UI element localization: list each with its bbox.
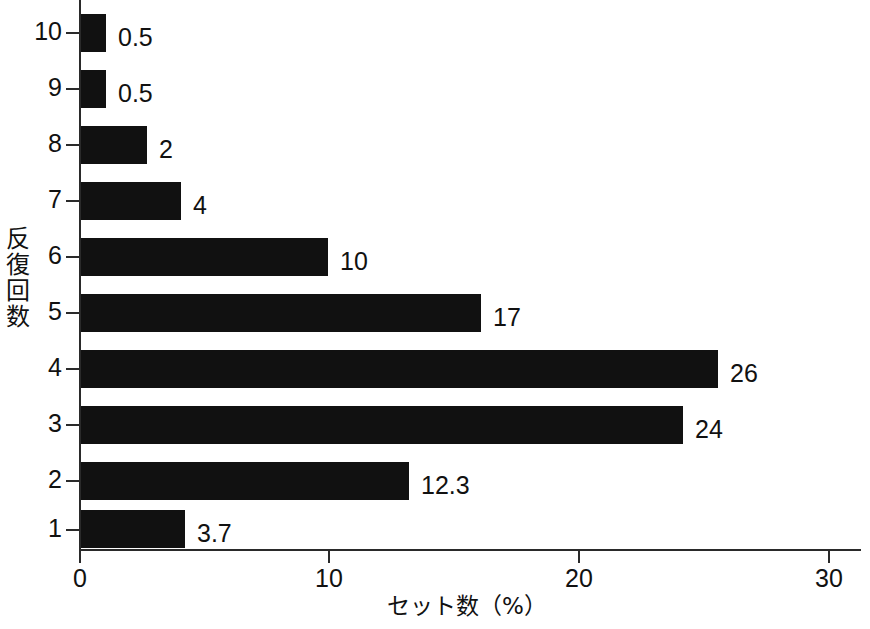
x-axis-tick — [79, 550, 81, 563]
bar — [81, 14, 106, 52]
bar — [81, 126, 147, 164]
x-axis-title: セット数（%） — [0, 595, 870, 618]
y-axis-tick — [66, 32, 80, 34]
y-axis-tick-label: 3 — [24, 411, 62, 436]
bar — [81, 70, 106, 108]
x-axis-tick-label: 10 — [299, 566, 359, 591]
y-axis-title-char: 反 — [4, 226, 32, 252]
y-axis-tick-label: 7 — [24, 187, 62, 212]
bar — [81, 350, 718, 388]
bar-value-label: 26 — [730, 361, 758, 386]
y-axis-tick — [66, 424, 80, 426]
y-axis-tick — [66, 88, 80, 90]
bar-value-label: 0.5 — [118, 81, 153, 106]
bar-value-label: 4 — [193, 193, 207, 218]
y-axis-title: 反復回数 — [4, 226, 32, 330]
bar-value-label: 24 — [695, 417, 723, 442]
bar-value-label: 0.5 — [118, 25, 153, 50]
bar-value-label: 3.7 — [197, 521, 232, 546]
bar-chart: 10987654321 0.50.5241017262412.33.7 0102… — [0, 0, 870, 629]
y-axis-tick-label: 9 — [24, 75, 62, 100]
y-axis-tick-label: 4 — [24, 355, 62, 380]
x-axis-tick — [828, 550, 830, 563]
y-axis-tick — [66, 312, 80, 314]
bar-value-label: 17 — [493, 305, 521, 330]
y-axis-title-char: 復 — [4, 252, 32, 278]
y-axis-tick-label: 8 — [24, 131, 62, 156]
bar — [81, 238, 328, 276]
bar — [81, 294, 481, 332]
x-axis-line — [79, 549, 861, 551]
x-axis-tick-label: 20 — [549, 566, 609, 591]
y-axis-tick-label: 1 — [24, 516, 62, 541]
y-axis-tick — [66, 200, 80, 202]
bar-value-label: 2 — [159, 137, 173, 162]
y-axis-tick-label: 2 — [24, 467, 62, 492]
x-axis-tick-label: 0 — [50, 566, 110, 591]
bar — [81, 406, 683, 444]
bar — [81, 510, 185, 548]
y-axis-tick — [66, 368, 80, 370]
bar-value-label: 10 — [340, 249, 368, 274]
y-axis-tick — [66, 256, 80, 258]
y-axis-title-char: 数 — [4, 304, 32, 330]
x-axis-tick-label: 30 — [799, 566, 859, 591]
x-axis-tick — [578, 550, 580, 563]
y-axis-tick — [66, 529, 80, 531]
y-axis-tick — [66, 144, 80, 146]
bar-value-label: 12.3 — [421, 473, 470, 498]
y-axis-title-char: 回 — [4, 278, 32, 304]
y-axis-tick — [66, 480, 80, 482]
x-axis-tick — [328, 550, 330, 563]
bar — [81, 182, 181, 220]
y-axis-tick-label: 10 — [24, 19, 62, 44]
bar — [81, 462, 409, 500]
